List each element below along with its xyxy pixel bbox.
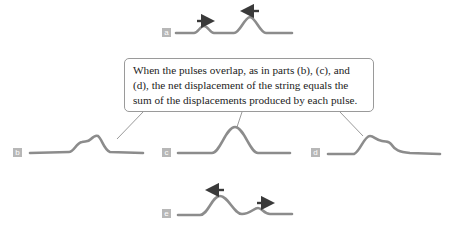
callout-pointers: [117, 112, 363, 139]
diagram-canvas: [0, 0, 449, 229]
panel-label-d: d: [311, 148, 320, 157]
panel-c-string: [178, 127, 290, 153]
panel-label-c: c: [162, 148, 171, 157]
superposition-callout: When the pulses overlap, as in parts (b)…: [124, 58, 374, 112]
callout-text: When the pulses overlap, as in parts (b)…: [133, 64, 357, 106]
panel-label-a: a: [162, 28, 171, 37]
panel-a-string: [176, 17, 292, 33]
panel-label-e: e: [162, 209, 171, 218]
panel-d-string: [328, 136, 440, 154]
pulse-superposition-diagram: When the pulses overlap, as in parts (b)…: [0, 0, 449, 229]
panel-b-string: [30, 136, 143, 153]
panel-label-b: b: [13, 148, 22, 157]
panel-e-string: [178, 196, 292, 215]
